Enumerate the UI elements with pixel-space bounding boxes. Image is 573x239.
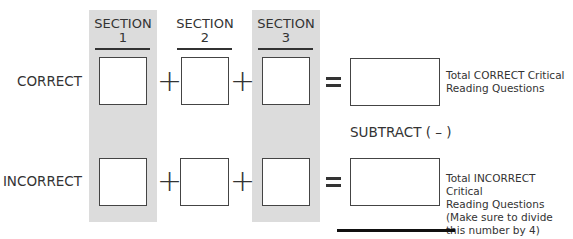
incorrect-row-label: INCORRECT bbox=[2, 173, 82, 189]
correct-total-input[interactable] bbox=[350, 58, 440, 106]
section-2-number: 2 bbox=[171, 31, 239, 45]
section-2-title: SECTION bbox=[171, 17, 239, 31]
correct-section-2-input[interactable] bbox=[181, 57, 229, 105]
section-3-rule bbox=[258, 48, 313, 50]
incorrect-total-input[interactable] bbox=[350, 158, 440, 206]
section-3-header: SECTION 3 bbox=[252, 17, 320, 45]
section-1-title: SECTION bbox=[89, 17, 157, 31]
incorrect-total-note: Total INCORRECT Critical Reading Questio… bbox=[446, 172, 573, 237]
section-2-rule bbox=[177, 48, 232, 50]
correct-row-label: CORRECT bbox=[2, 73, 82, 89]
result-line bbox=[337, 229, 455, 232]
correct-section-1-input[interactable] bbox=[99, 57, 147, 105]
section-3-number: 3 bbox=[252, 31, 320, 45]
plus-sign: + bbox=[157, 66, 177, 96]
incorrect-section-1-input[interactable] bbox=[99, 158, 147, 206]
correct-total-note: Total CORRECT Critical Reading Questions bbox=[446, 69, 565, 95]
plus-sign: + bbox=[230, 66, 250, 96]
equals-sign bbox=[326, 77, 341, 87]
incorrect-section-3-input[interactable] bbox=[262, 158, 310, 206]
section-1-rule bbox=[95, 48, 150, 50]
correct-section-3-input[interactable] bbox=[262, 57, 310, 105]
plus-sign: + bbox=[230, 166, 250, 196]
section-1-number: 1 bbox=[89, 31, 157, 45]
section-2-header: SECTION 2 bbox=[171, 17, 239, 45]
equals-sign bbox=[326, 177, 341, 187]
incorrect-section-2-input[interactable] bbox=[180, 158, 229, 206]
section-3-title: SECTION bbox=[252, 17, 320, 31]
subtract-label: SUBTRACT ( – ) bbox=[350, 124, 452, 140]
plus-sign: + bbox=[157, 166, 177, 196]
section-1-header: SECTION 1 bbox=[89, 17, 157, 45]
